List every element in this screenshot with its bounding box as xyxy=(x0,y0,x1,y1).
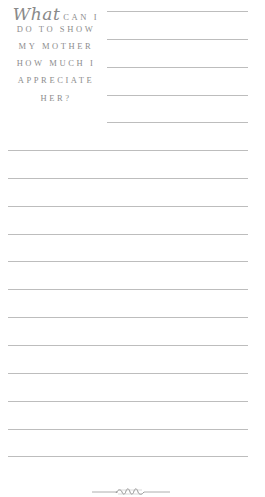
writing-line[interactable] xyxy=(8,401,248,402)
writing-line[interactable] xyxy=(8,206,248,207)
rope-flourish-icon xyxy=(92,486,170,497)
writing-line[interactable] xyxy=(8,261,248,262)
prompt-line-text: CAN I xyxy=(63,12,99,22)
writing-line[interactable] xyxy=(8,429,248,430)
writing-line[interactable] xyxy=(107,67,248,68)
writing-line[interactable] xyxy=(8,373,248,374)
prompt-line-3: MY MOTHER xyxy=(6,41,106,51)
writing-line[interactable] xyxy=(8,178,248,179)
writing-line[interactable] xyxy=(8,150,248,151)
prompt-script-word: What xyxy=(13,4,60,24)
journal-page: WhatCAN I DO TO SHOW MY MOTHER HOW MUCH … xyxy=(0,0,265,497)
writing-line[interactable] xyxy=(107,122,248,123)
prompt-line-1: WhatCAN I xyxy=(6,4,106,24)
writing-line[interactable] xyxy=(8,456,248,457)
prompt-line-2: DO TO SHOW xyxy=(6,24,106,34)
prompt-line-4: HOW MUCH I xyxy=(6,58,106,68)
prompt-line-5: APPRECIATE xyxy=(6,75,106,85)
writing-line[interactable] xyxy=(107,95,248,96)
writing-line[interactable] xyxy=(8,289,248,290)
writing-line[interactable] xyxy=(8,234,248,235)
writing-line[interactable] xyxy=(8,345,248,346)
prompt-line-6: HER? xyxy=(6,93,106,103)
writing-line[interactable] xyxy=(107,39,248,40)
writing-line[interactable] xyxy=(8,317,248,318)
writing-line[interactable] xyxy=(107,11,248,12)
